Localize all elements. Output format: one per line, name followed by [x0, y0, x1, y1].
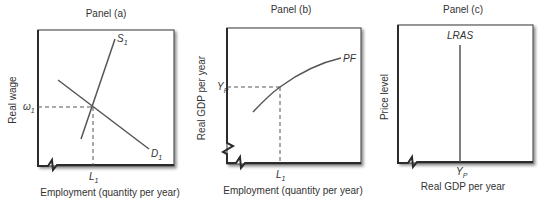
panel-b-employment-tick-label: L1: [276, 169, 286, 182]
panel-a: Panel (a) S1 D1 ω1 L1 Employment (quanti…: [7, 8, 180, 198]
panel-a-y-axis-label: Real wage: [7, 76, 18, 124]
panel-a-title: Panel (a): [86, 8, 127, 19]
panel-c-x-axis-label: Real GDP per year: [421, 181, 506, 192]
panel-c-title: Panel (c): [443, 4, 483, 15]
panel-b-y-axis-label: Real GDP per year: [196, 55, 207, 140]
panel-b: Panel (b) PF YP L1 Employment (quantity …: [196, 4, 363, 196]
panel-a-x-axis-label: Employment (quantity per year): [40, 187, 180, 198]
panel-c-frame: [398, 25, 533, 163]
panel-c-potential-output-tick-label: YP: [456, 166, 468, 179]
lras-label: LRAS: [447, 30, 473, 41]
three-panel-figure: Panel (a) S1 D1 ω1 L1 Employment (quanti…: [0, 0, 546, 207]
panel-c: Panel (c) LRAS YP Real GDP per year Pric…: [379, 4, 533, 192]
employment-tick-label: L1: [89, 171, 99, 184]
panel-c-y-axis-label: Price level: [379, 74, 390, 120]
panel-b-x-axis-label: Employment (quantity per year): [223, 185, 363, 196]
production-function-label: PF: [343, 53, 357, 64]
panel-a-frame: [38, 30, 174, 166]
panel-b-frame: [227, 28, 361, 164]
real-wage-tick-label: ω1: [23, 101, 35, 114]
panel-b-title: Panel (b): [271, 4, 312, 15]
